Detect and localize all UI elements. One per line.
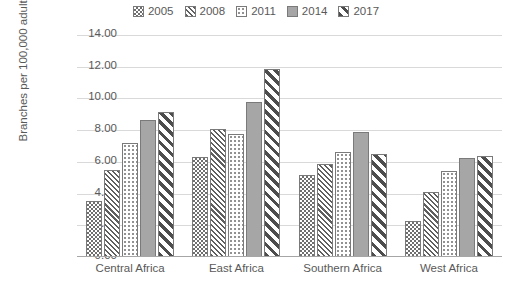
bar-2005[interactable]	[192, 157, 208, 257]
legend-item-2011[interactable]: 2011	[236, 6, 276, 17]
x-axis-line	[77, 256, 502, 257]
legend-swatch-icon	[236, 6, 247, 17]
bar-2014[interactable]	[140, 120, 156, 257]
bar-2008[interactable]	[423, 192, 439, 257]
bar-2008[interactable]	[104, 170, 120, 257]
legend-swatch-icon	[133, 6, 144, 17]
bar-2014[interactable]	[459, 158, 475, 257]
bar-2017[interactable]	[264, 69, 280, 257]
bar-2017[interactable]	[371, 154, 387, 257]
legend-label: 2005	[148, 6, 174, 17]
legend-item-2017[interactable]: 2017	[338, 6, 379, 17]
bar-2017[interactable]	[477, 156, 493, 257]
y-axis-title: Branches per 100,000 adults	[17, 0, 29, 178]
legend-label: 2014	[302, 6, 328, 17]
bar-chart: 20052008201120142017 Branches per 100,00…	[0, 0, 512, 287]
x-axis-label: East Africa	[183, 262, 289, 282]
legend-label: 2008	[200, 6, 226, 17]
x-axis-label: Southern Africa	[290, 262, 396, 282]
bar-2005[interactable]	[299, 175, 315, 257]
bar-2005[interactable]	[86, 201, 102, 257]
bar-2014[interactable]	[246, 102, 262, 257]
legend-item-2005[interactable]: 2005	[133, 6, 174, 17]
bar-2008[interactable]	[317, 164, 333, 257]
bar-2008[interactable]	[210, 129, 226, 257]
x-axis-label: West Africa	[396, 262, 502, 282]
legend-item-2008[interactable]: 2008	[185, 6, 226, 17]
legend-swatch-icon	[287, 6, 298, 17]
bar-2011[interactable]	[441, 171, 457, 257]
chart-legend: 20052008201120142017	[0, 2, 512, 20]
bar-groups	[77, 35, 502, 257]
bar-2005[interactable]	[405, 221, 421, 257]
bar-group-southern-africa	[290, 35, 396, 257]
plot-area: 14.0012.0010.008.006.004.002.000.00	[77, 35, 502, 257]
bar-2014[interactable]	[353, 132, 369, 257]
legend-item-2014[interactable]: 2014	[287, 6, 328, 17]
legend-label: 2017	[353, 6, 379, 17]
bar-2011[interactable]	[122, 143, 138, 257]
bar-group-west-africa	[396, 35, 502, 257]
bar-2011[interactable]	[335, 152, 351, 257]
bar-group-central-africa	[77, 35, 183, 257]
legend-swatch-icon	[338, 6, 349, 17]
bar-group-east-africa	[183, 35, 289, 257]
x-axis-labels: Central AfricaEast AfricaSouthern Africa…	[77, 262, 502, 282]
x-axis-label: Central Africa	[77, 262, 183, 282]
legend-swatch-icon	[185, 6, 196, 17]
bar-2011[interactable]	[228, 134, 244, 257]
bar-2017[interactable]	[158, 112, 174, 257]
legend-label: 2011	[251, 6, 276, 17]
